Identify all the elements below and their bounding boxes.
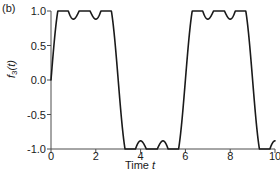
data-curve-f3	[51, 11, 275, 149]
figure-panel: (b) -1.0-0.50.00.51.0 f3(t) 0246810 Time…	[0, 0, 280, 179]
x-axis-label-var: t	[152, 159, 155, 171]
tick-marks	[47, 11, 275, 153]
x-axis-label-text: Time	[125, 159, 152, 171]
x-axis-label: Time t	[0, 159, 280, 171]
axis-lines	[51, 11, 275, 149]
